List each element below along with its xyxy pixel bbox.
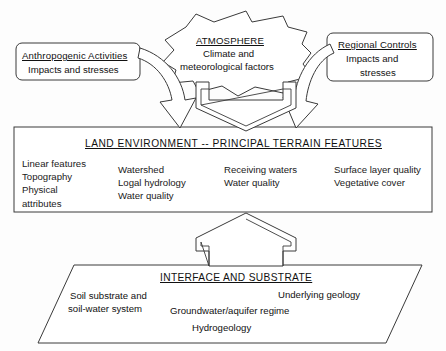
- interface-mid-item: Groundwater/aquifer regime: [170, 305, 289, 316]
- land-column-2: Watershed Logal hydrology Water quality: [118, 163, 186, 203]
- interface-left-line-1: Soil substrate and: [70, 290, 147, 301]
- land-col4-item-1: Vegetative cover: [334, 176, 421, 189]
- land-col1-item-0: Linear features: [22, 157, 86, 170]
- land-column-1: Linear features Topography Physical attr…: [22, 157, 86, 210]
- interface-left-line-2: soil-water system: [68, 303, 142, 314]
- land-environment-title: LAND ENVIRONMENT -- PRINCIPAL TERRAIN FE…: [85, 138, 382, 150]
- land-column-3: Receiving waters Water quality: [224, 163, 297, 189]
- atmosphere-line-2: meteorological factors: [180, 61, 274, 72]
- anthropogenic-line-1: Impacts and stresses: [28, 64, 119, 75]
- land-col1-item-2: Physical: [22, 183, 86, 196]
- interface-bottom-item: Hydrogeology: [192, 322, 251, 333]
- land-col3-item-1: Water quality: [224, 176, 297, 189]
- anthropogenic-title: Anthropogenic Activities: [22, 50, 127, 61]
- land-col1-item-3: attributes: [22, 197, 86, 210]
- diagram-canvas: Anthropogenic Activities Impacts and str…: [0, 0, 446, 351]
- regional-line-1: Impacts and: [346, 53, 398, 64]
- atmosphere-title: ATMOSPHERE: [196, 35, 264, 46]
- land-col2-item-0: Watershed: [118, 163, 186, 176]
- atmosphere-line-1: Climate and: [203, 48, 254, 59]
- land-col2-item-2: Water quality: [118, 189, 186, 202]
- interface-title: INTERFACE AND SUBSTRATE: [160, 272, 312, 284]
- interface-right-item: Underlying geology: [278, 289, 360, 300]
- regional-title: Regional Controls: [338, 39, 417, 50]
- land-col1-item-1: Topography: [22, 170, 86, 183]
- regional-line-2: stresses: [360, 67, 396, 78]
- substrate-up-arrow-outer: [196, 213, 296, 266]
- land-col2-item-1: Logal hydrology: [118, 176, 186, 189]
- land-col3-item-0: Receiving waters: [224, 163, 297, 176]
- land-column-4: Surface layer quality Vegetative cover: [334, 163, 421, 189]
- land-col4-item-0: Surface layer quality: [334, 163, 421, 176]
